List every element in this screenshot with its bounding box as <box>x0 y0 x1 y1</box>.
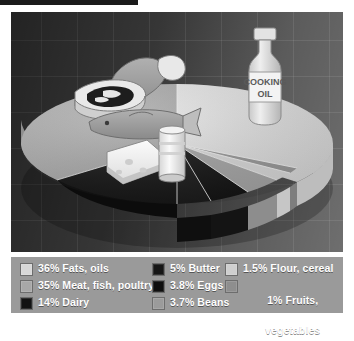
legend-column-1: 36% Fats, oils 35% Meat, fish, poultry 1… <box>20 261 154 312</box>
legend-item-eggs[interactable]: 3.8% Eggs <box>152 278 229 295</box>
legend-item-dairy[interactable]: 14% Dairy <box>20 295 154 312</box>
legend-panel: 36% Fats, oils 35% Meat, fish, poultry 1… <box>11 257 343 313</box>
legend-item-beans[interactable]: 3.7% Beans <box>152 295 229 312</box>
legend-column-2: 5% Butter 3.8% Eggs 3.7% Beans <box>152 261 229 312</box>
legend-swatch-icon <box>152 297 165 310</box>
legend-column-3: 1.5% Flour, cereal 1% Fruits, vegetables <box>225 261 334 308</box>
legend-swatch-icon <box>20 297 33 310</box>
legend-swatch-icon <box>20 263 33 276</box>
legend-item-fats-oils[interactable]: 36% Fats, oils <box>20 261 154 278</box>
legend-swatch-icon <box>20 280 33 293</box>
legend-label: 3.8% Eggs <box>170 278 223 293</box>
chart-panel: COOKING OIL <box>11 12 343 252</box>
legend-swatch-icon <box>225 263 238 276</box>
legend-label: 1% Fruits, vegetables <box>243 278 320 341</box>
legend-swatch-icon <box>152 263 165 276</box>
legend-label: 3.7% Beans <box>170 295 229 310</box>
milk-carton-illustration <box>159 126 185 182</box>
legend-label-line2: vegetables <box>243 323 320 337</box>
legend-label-line1: 1% Fruits, <box>267 294 318 306</box>
oil-label-line1: COOKING <box>243 77 286 87</box>
legend-label: 5% Butter <box>170 261 220 276</box>
legend-item-fruits-vegetables[interactable]: 1% Fruits, vegetables <box>225 278 334 308</box>
legend-label: 36% Fats, oils <box>38 261 109 276</box>
pie-chart-3d: COOKING OIL <box>11 12 343 252</box>
legend-swatch-icon <box>225 280 238 293</box>
legend-label: 14% Dairy <box>38 295 89 310</box>
legend-item-butter[interactable]: 5% Butter <box>152 261 229 278</box>
oil-label-line2: OIL <box>258 89 274 99</box>
legend-item-meat[interactable]: 35% Meat, fish, poultry <box>20 278 154 295</box>
black-header-bar <box>0 0 138 5</box>
legend-item-flour-cereal[interactable]: 1.5% Flour, cereal <box>225 261 334 278</box>
legend-swatch-icon <box>152 280 165 293</box>
legend-label: 1.5% Flour, cereal <box>243 261 334 276</box>
legend-label: 35% Meat, fish, poultry <box>38 278 154 293</box>
oil-bottle-illustration: COOKING OIL <box>243 28 286 125</box>
